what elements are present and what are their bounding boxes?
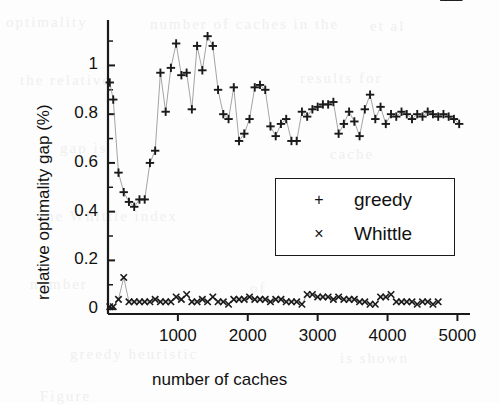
data-point-plus <box>272 132 280 140</box>
data-point-plus <box>355 132 363 140</box>
legend-marker-plus-icon: + <box>306 185 332 215</box>
data-point-plus <box>376 103 384 111</box>
x-axis-tick-label: 3000 <box>283 326 353 346</box>
data-point-cross <box>115 296 121 302</box>
data-point-plus <box>292 137 300 145</box>
x-axis-tick-label: 5000 <box>422 326 492 346</box>
y-axis-tick-label: 0.2 <box>52 249 98 269</box>
data-point-plus <box>146 159 154 167</box>
legend-label-greedy: greedy <box>354 185 412 215</box>
data-point-plus <box>151 147 159 155</box>
data-point-plus <box>161 108 169 116</box>
legend-label-whittle: Whittle <box>354 219 412 249</box>
data-point-plus <box>114 168 122 176</box>
data-point-plus <box>188 105 196 113</box>
y-axis-tick-label: 0 <box>52 298 98 318</box>
data-point-plus <box>382 120 390 128</box>
data-point-plus <box>109 95 117 103</box>
series-whittle <box>107 0 463 310</box>
data-point-plus <box>106 78 114 86</box>
data-point-plus <box>366 90 374 98</box>
data-point-plus <box>167 64 175 72</box>
data-point-plus <box>235 137 243 145</box>
legend-marker-cross-icon: × <box>306 219 332 249</box>
data-point-plus <box>371 115 379 123</box>
x-axis-tick-label: 4000 <box>353 326 423 346</box>
data-point-plus <box>156 69 164 77</box>
data-point-plus <box>209 42 217 50</box>
data-point-plus <box>198 66 206 74</box>
y-axis-tick-label: 0.6 <box>52 152 98 172</box>
data-point-plus <box>350 117 358 125</box>
data-point-plus <box>361 105 369 113</box>
y-axis-tick-label: 0.8 <box>52 103 98 123</box>
data-point-plus <box>230 83 238 91</box>
x-axis-tick-label: 1000 <box>143 326 213 346</box>
data-point-cross <box>183 291 189 297</box>
data-point-plus <box>172 39 180 47</box>
data-point-plus <box>203 32 211 40</box>
data-point-cross <box>121 274 127 280</box>
data-point-plus <box>214 86 222 94</box>
data-point-plus <box>345 108 353 116</box>
data-point-plus <box>193 42 201 50</box>
legend-entry-whittle: × Whittle <box>276 219 454 249</box>
y-axis-tick-label: 0.4 <box>52 201 98 221</box>
data-point-plus <box>340 120 348 128</box>
x-axis-label: number of caches <box>152 370 287 390</box>
data-point-plus <box>266 122 274 130</box>
data-point-plus <box>334 129 342 137</box>
x-axis-tick-label: 2000 <box>213 326 283 346</box>
data-point-plus <box>240 129 248 137</box>
data-point-plus <box>140 195 148 203</box>
legend-entry-greedy: + greedy <box>276 185 454 215</box>
chart-legend: + greedy × Whittle <box>275 178 455 256</box>
data-point-plus <box>245 115 253 123</box>
y-axis-label: relative optimality gap (%) <box>34 104 54 300</box>
y-axis-tick-label: 1 <box>52 54 98 74</box>
data-point-plus <box>120 188 128 196</box>
